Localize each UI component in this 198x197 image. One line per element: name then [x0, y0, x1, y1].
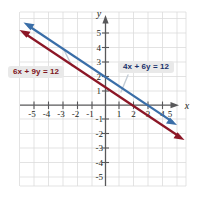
callout-red-equation-text: 6x + 9y = 12: [13, 67, 59, 76]
y-tick--1: -1: [96, 114, 104, 124]
x-axis-label: x: [184, 100, 190, 111]
callout-blue-equation-text: 4x + 6y = 12: [123, 62, 169, 71]
callout-red-equation: 6x + 9y = 12: [8, 66, 64, 78]
coordinate-plane-svg: -5 -4 -3 -2 -1 1 2 3 4 5 5 4 3 2 1 -1 -2…: [0, 0, 198, 197]
x-tick--5: -5: [28, 109, 36, 119]
y-tick-3: 3: [97, 57, 102, 67]
y-tick--4: -4: [96, 158, 104, 168]
y-tick--3: -3: [96, 143, 104, 153]
x-tick--2: -2: [72, 109, 80, 119]
x-tick-2: 2: [131, 109, 136, 119]
x-tick-1: 1: [117, 109, 122, 119]
y-tick-1: 1: [97, 86, 102, 96]
y-tick--5: -5: [96, 172, 104, 182]
y-axis-arrow: [102, 15, 108, 24]
y-tick-4: 4: [97, 43, 102, 53]
y-axis-label: y: [96, 8, 102, 19]
callout-blue-equation: 4x + 6y = 12: [118, 61, 174, 73]
x-tick-5: 5: [168, 109, 173, 119]
x-tick--4: -4: [43, 109, 51, 119]
y-tick-5: 5: [97, 28, 102, 38]
x-tick--3: -3: [57, 109, 65, 119]
x-axis-arrow: [171, 102, 180, 108]
x-tick--1: -1: [86, 109, 94, 119]
y-tick--2: -2: [96, 129, 104, 139]
graph-figure: -5 -4 -3 -2 -1 1 2 3 4 5 5 4 3 2 1 -1 -2…: [0, 0, 198, 197]
